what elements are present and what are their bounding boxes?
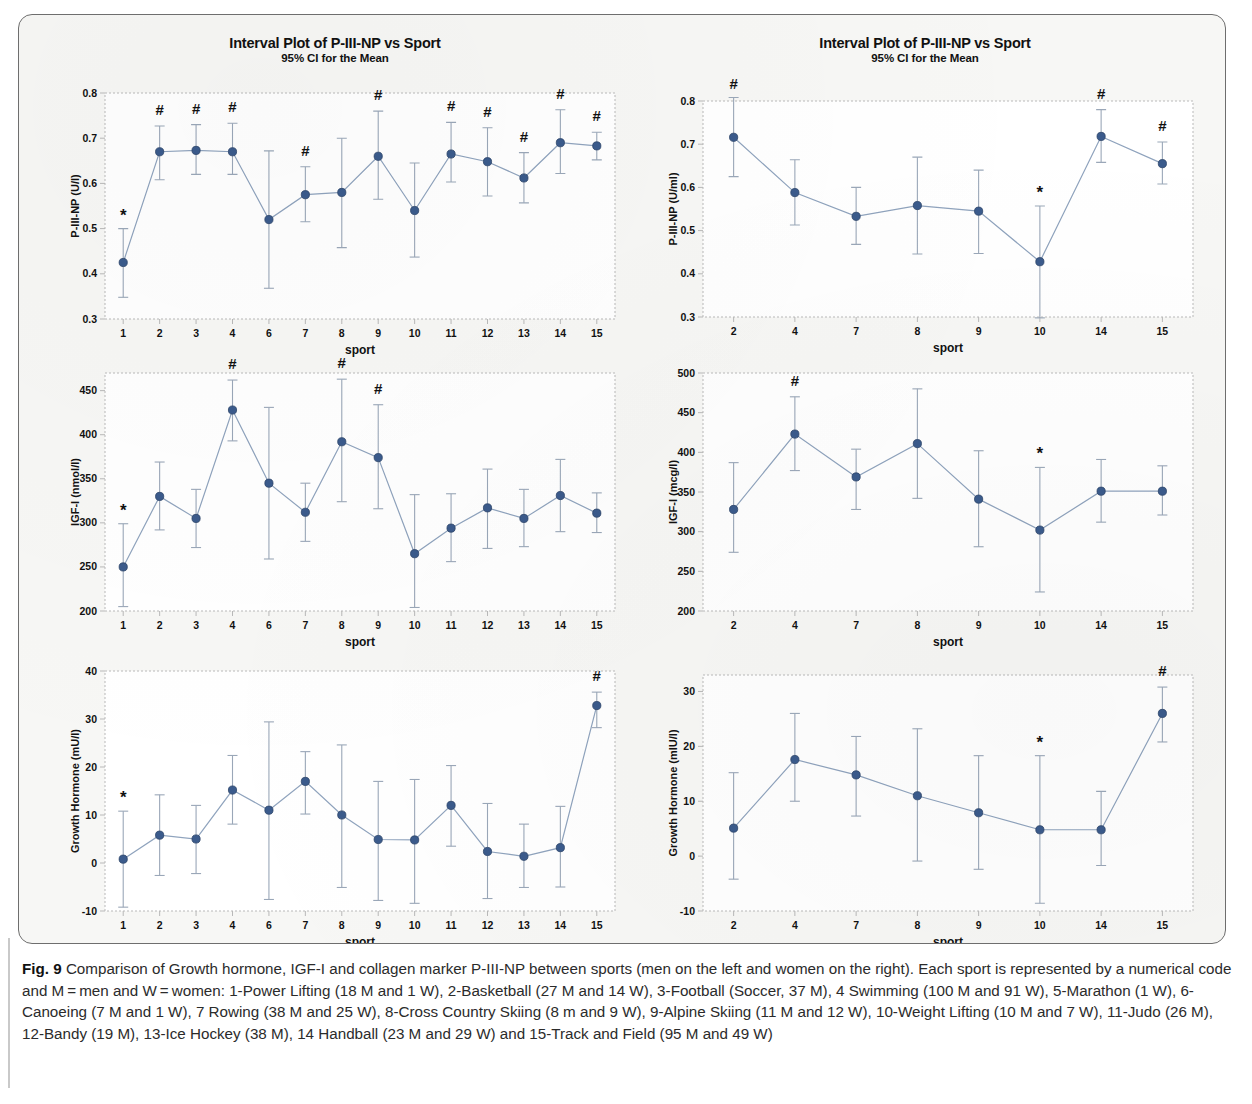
x-tick-label: 8 xyxy=(914,619,920,631)
chart-igf1-men: 20025030035040045012346789101112131415*#… xyxy=(35,351,635,651)
y-tick-label: 500 xyxy=(677,367,695,379)
hash-significance-marker: # xyxy=(1097,85,1106,102)
x-tick-label: 7 xyxy=(853,325,859,337)
page-edge-rule xyxy=(8,938,10,1088)
figure-number: Fig. 9 xyxy=(22,960,62,977)
y-tick-label: -10 xyxy=(82,905,97,917)
y-tick-label: 0.8 xyxy=(82,87,97,99)
figure-panel: Interval Plot of P-III-NP vs Sport95% CI… xyxy=(18,14,1226,944)
y-tick-label: 0.4 xyxy=(82,267,97,279)
x-tick-label: 8 xyxy=(914,325,920,337)
x-axis-label-igf1-men: sport xyxy=(105,635,615,649)
y-tick-label: 30 xyxy=(85,713,97,725)
y-tick-label: 0.8 xyxy=(680,95,695,107)
y-axis-label-piiinp-women: P-III-NP (U/ml) xyxy=(667,172,679,245)
hash-significance-marker: # xyxy=(374,380,383,397)
x-tick-label: 9 xyxy=(375,619,381,631)
x-tick-label: 3 xyxy=(193,327,199,339)
x-axis-label-igf1-women: sport xyxy=(703,635,1193,649)
hash-significance-marker: # xyxy=(338,354,347,371)
y-tick-label: 0.4 xyxy=(680,267,695,279)
hash-significance-marker: # xyxy=(593,667,602,684)
asterisk-significance-marker: * xyxy=(1037,444,1044,463)
y-tick-label: 450 xyxy=(677,406,695,418)
plot-area-gh-women: -10010203024789101415*#Growth Hormone (m… xyxy=(635,651,1215,944)
x-tick-label: 10 xyxy=(409,327,421,339)
y-tick-label: 0.3 xyxy=(82,313,97,325)
y-axis-label-gh-women: Growth Hormone (mIU/l) xyxy=(667,729,679,856)
x-tick-label: 10 xyxy=(409,619,421,631)
plot-area-igf1-men: 20025030035040045012346789101112131415*#… xyxy=(35,351,635,651)
x-tick-label: 2 xyxy=(157,327,163,339)
figure-caption: Fig. 9 Comparison of Growth hormone, IGF… xyxy=(22,958,1234,1044)
x-axis-label-gh-women: sport xyxy=(703,935,1193,944)
y-tick-label: -10 xyxy=(680,905,695,917)
y-tick-label: 400 xyxy=(677,446,695,458)
x-tick-label: 2 xyxy=(731,919,737,931)
asterisk-significance-marker: * xyxy=(120,206,127,225)
x-tick-label: 8 xyxy=(339,619,345,631)
y-tick-label: 250 xyxy=(677,565,695,577)
hash-significance-marker: # xyxy=(155,101,164,118)
y-tick-label: 10 xyxy=(683,795,695,807)
y-tick-label: 450 xyxy=(79,384,97,396)
y-tick-label: 250 xyxy=(79,560,97,572)
x-tick-label: 14 xyxy=(1095,325,1107,337)
x-tick-label: 15 xyxy=(591,619,603,631)
x-tick-label: 10 xyxy=(1034,325,1046,337)
figure-caption-text: Comparison of Growth hormone, IGF-I and … xyxy=(22,960,1231,1042)
hash-significance-marker: # xyxy=(1158,662,1167,679)
chart-igf1-women: 20025030035040045050024789101415#*IGF-I … xyxy=(635,351,1215,651)
asterisk-significance-marker: * xyxy=(1037,183,1044,202)
x-tick-label: 13 xyxy=(518,619,530,631)
y-axis-label-gh-men: Growth Hormone (mU/l) xyxy=(69,729,81,853)
x-tick-label: 3 xyxy=(193,619,199,631)
x-tick-label: 13 xyxy=(518,327,530,339)
x-tick-label: 7 xyxy=(853,919,859,931)
y-tick-label: 200 xyxy=(79,605,97,617)
hash-significance-marker: # xyxy=(520,128,529,145)
y-tick-label: 40 xyxy=(85,665,97,677)
x-tick-label: 12 xyxy=(482,327,494,339)
x-tick-label: 7 xyxy=(302,919,308,931)
x-tick-label: 11 xyxy=(446,919,457,931)
plot-area-piiinp-men: 0.30.40.50.60.70.812346789101112131415*#… xyxy=(35,21,635,341)
x-tick-label: 4 xyxy=(230,919,236,931)
x-tick-label: 8 xyxy=(339,919,345,931)
x-tick-label: 13 xyxy=(518,919,530,931)
hash-significance-marker: # xyxy=(301,142,310,159)
y-tick-label: 0.5 xyxy=(680,224,695,236)
x-tick-label: 8 xyxy=(339,327,345,339)
y-tick-label: 30 xyxy=(683,685,695,697)
x-tick-label: 2 xyxy=(731,619,737,631)
y-axis-label-igf1-women: IGF-I (mcg/l) xyxy=(667,460,679,524)
y-tick-label: 300 xyxy=(79,516,97,528)
x-tick-label: 1 xyxy=(120,919,126,931)
y-tick-label: 0 xyxy=(689,850,695,862)
y-tick-label: 200 xyxy=(677,605,695,617)
x-tick-label: 7 xyxy=(302,619,308,631)
y-tick-label: 0.5 xyxy=(82,222,97,234)
y-tick-label: 0.6 xyxy=(680,181,695,193)
x-tick-label: 9 xyxy=(375,919,381,931)
y-tick-label: 0.3 xyxy=(680,311,695,323)
x-tick-label: 15 xyxy=(1157,325,1169,337)
x-tick-label: 10 xyxy=(1034,919,1046,931)
x-tick-label: 4 xyxy=(792,619,798,631)
x-tick-label: 9 xyxy=(375,327,381,339)
x-axis-label-gh-men: sport xyxy=(105,935,615,944)
x-tick-label: 7 xyxy=(853,619,859,631)
x-tick-label: 6 xyxy=(266,619,272,631)
x-tick-label: 14 xyxy=(1095,619,1107,631)
hash-significance-marker: # xyxy=(1158,117,1167,134)
x-tick-label: 4 xyxy=(230,327,236,339)
hash-significance-marker: # xyxy=(556,85,565,102)
y-tick-label: 0 xyxy=(91,857,97,869)
x-tick-label: 9 xyxy=(976,919,982,931)
y-tick-label: 10 xyxy=(85,809,97,821)
y-tick-label: 300 xyxy=(677,525,695,537)
plot-area-igf1-women: 20025030035040045050024789101415#*IGF-I … xyxy=(635,351,1215,651)
hash-significance-marker: # xyxy=(228,355,237,372)
x-tick-label: 2 xyxy=(731,325,737,337)
x-tick-label: 7 xyxy=(302,327,308,339)
